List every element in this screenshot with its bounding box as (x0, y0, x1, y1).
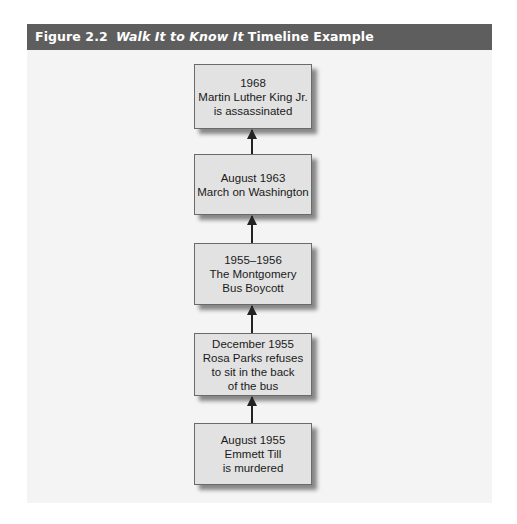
timeline-event-box: 1955–1956 The Montgomery Bus Boycott (194, 243, 312, 305)
event-description-line: Martin Luther King Jr. (198, 90, 307, 104)
timeline-event-box: December 1955 Rosa Parks refuses to sit … (194, 333, 312, 396)
figure-panel: Figure 2.2 Walk It to Know It Timeline E… (27, 24, 492, 503)
event-date: 1968 (240, 76, 266, 90)
timeline-event-box: August 1963 March on Washington (194, 154, 312, 215)
event-date: December 1955 (212, 337, 294, 351)
event-description-line: March on Washington (197, 185, 308, 199)
event-date: August 1955 (221, 433, 286, 447)
event-description-line: Rosa Parks refuses (203, 351, 303, 365)
timeline-event-box: 1968 Martin Luther King Jr. is assassina… (194, 64, 312, 129)
event-description-line: Emmett Till (225, 447, 282, 461)
timeline-diagram: 1968 Martin Luther King Jr. is assassina… (27, 24, 492, 503)
event-description-line: of the bus (228, 379, 279, 393)
arrow-up-icon (251, 306, 253, 333)
event-description-line: The Montgomery (210, 267, 297, 281)
event-description-line: is assassinated (214, 104, 293, 118)
event-description-line: to sit in the back (211, 365, 294, 379)
arrow-up-icon (251, 397, 253, 423)
arrow-up-icon (251, 130, 253, 154)
event-date: 1955–1956 (224, 253, 282, 267)
event-description-line: Bus Boycott (222, 281, 283, 295)
event-description-line: is murdered (223, 461, 284, 475)
event-date: August 1963 (221, 171, 286, 185)
timeline-event-box: August 1955 Emmett Till is murdered (194, 423, 312, 485)
arrow-up-icon (251, 216, 253, 243)
